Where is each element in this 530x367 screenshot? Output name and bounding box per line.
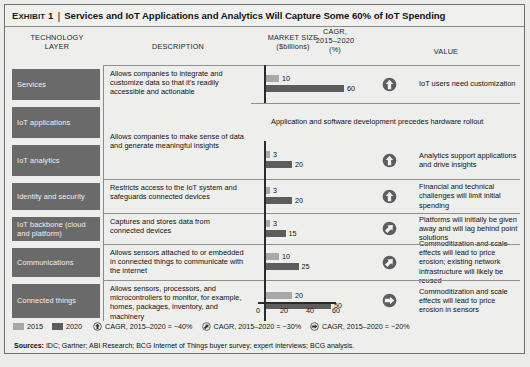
description-text: Allows sensors, processors, and microcon… (110, 284, 245, 321)
sources-note: Sources: IDC; Gartner; ABI Research; BCG… (14, 342, 354, 349)
arrow-diagonal-icon (382, 255, 397, 270)
layer-label: IoT backbone (cloud and platform) (17, 220, 95, 238)
value-cell: Commoditization and scale effects will l… (409, 244, 524, 280)
sources-label: Sources: (14, 342, 44, 349)
table-row: Connected thingsAllows sensors, processo… (5, 280, 524, 321)
bar-label-2015: 3 (273, 220, 277, 227)
bar-label-2015: 3 (273, 187, 277, 194)
legend-swatch (13, 323, 24, 330)
layer-chip[interactable]: Services (12, 69, 100, 100)
bar-group: 1025 (266, 244, 369, 280)
bar-group: 320 (266, 141, 369, 179)
page-title: Services and IoT Applications and Analyt… (64, 10, 445, 21)
value-text: Commoditization and scale effects will l… (419, 287, 518, 315)
legend-item-cagr[interactable]: CAGR, 2015–2020 = ~30% (202, 322, 302, 331)
bar-2020 (266, 85, 344, 92)
bar-label-2015: 20 (295, 292, 303, 299)
bar-2015 (266, 151, 270, 158)
column-header-cagr-line3: (%) (305, 45, 365, 54)
arrow-up-icon (93, 322, 102, 331)
bar-label-2020: 15 (289, 230, 297, 237)
technology-layer-cell: Communications (5, 244, 103, 280)
description-text: Restricts access to the IoT system and s… (110, 183, 245, 201)
x-axis-tick-label: 60 (332, 306, 340, 315)
bar-label-2015: 10 (282, 75, 290, 82)
column-header-cagr-line1: CAGR, (305, 27, 365, 36)
description-text: Captures and stores data from connected … (110, 217, 245, 235)
description-cell: Captures and stores data from connected … (103, 213, 251, 244)
arrow-diagonal-icon (382, 221, 397, 236)
legend-label: 2020 (66, 322, 82, 331)
description-text: Allows companies to make sense of data a… (110, 132, 245, 150)
arrow-up-icon (382, 153, 397, 168)
bar-2015 (266, 75, 279, 82)
table-row: IoT analytics320Analytics support applic… (5, 141, 524, 179)
market-size-cell: 320 (251, 141, 369, 179)
bar-2020 (266, 197, 292, 204)
technology-layer-cell: IoT applications (5, 103, 103, 141)
description-cell: Allows sensors attached to or embedded i… (103, 244, 251, 280)
value-text: IoT users need customization (419, 79, 515, 88)
legend-label: 2015 (27, 322, 43, 331)
x-axis-tick-label: 0 (256, 306, 260, 315)
bar-group: 1060 (266, 65, 369, 103)
value-cell: Commoditization and scale effects will l… (409, 280, 524, 321)
arrow-right-icon (310, 322, 319, 331)
value-cell: Analytics support applications and drive… (409, 141, 524, 179)
cagr-cell (369, 244, 409, 280)
layer-chip[interactable]: Communications (12, 248, 100, 277)
legend-item-cagr[interactable]: CAGR, 2015–2020 = ~40% (93, 322, 193, 331)
legend-label: CAGR, 2015–2020 = ~30% (214, 322, 302, 331)
chart-legend: 20152020CAGR, 2015–2020 = ~40%CAGR, 2015… (13, 322, 419, 331)
technology-layer-cell: IoT analytics (5, 141, 103, 179)
description-text: Allows sensors attached to or embedded i… (110, 248, 245, 276)
column-header-cagr: CAGR, 2015–2020 (%) (305, 27, 365, 54)
table-row: Identity and securityRestricts access to… (5, 179, 524, 213)
technology-layer-cell: Services (5, 65, 103, 103)
description-cell: Allows companies to make sense of data a… (103, 103, 251, 179)
cagr-cell (369, 179, 409, 213)
legend-item-series[interactable]: 2020 (52, 322, 82, 331)
layer-chip[interactable]: Identity and security (12, 183, 100, 210)
legend-label: CAGR, 2015–2020 = ~40% (105, 322, 193, 331)
bar-group: 315 (266, 213, 369, 244)
arrow-diagonal-icon (202, 322, 211, 331)
description-cell: Allows sensors, processors, and microcon… (103, 280, 251, 321)
layer-chip[interactable]: IoT backbone (cloud and platform) (12, 217, 100, 241)
layer-chip[interactable]: IoT applications (12, 107, 100, 138)
technology-layer-cell: Identity and security (5, 179, 103, 213)
market-size-cell: 320 (251, 179, 369, 213)
bar-2015 (266, 187, 270, 194)
layer-chip[interactable]: IoT analytics (12, 145, 100, 176)
value-text: Commoditization and scale effects will l… (419, 239, 518, 285)
column-headers: TECHNOLOGY LAYER DESCRIPTION MARKET SIZE… (5, 28, 524, 65)
bar-label-2020: 25 (302, 263, 310, 270)
description-cell: Allows companies to integrate and custom… (103, 65, 251, 103)
legend-item-series[interactable]: 2015 (13, 322, 43, 331)
legend-label: CAGR, 2015–2020 = ~20% (322, 322, 410, 331)
market-size-cell: 315 (251, 213, 369, 244)
bar-label-2020: 20 (295, 161, 303, 168)
column-header-technology-layer-line1: TECHNOLOGY (13, 33, 101, 42)
column-header-value: VALUE (371, 47, 521, 56)
column-header-technology-layer: TECHNOLOGY LAYER (13, 33, 101, 51)
column-header-description: DESCRIPTION (105, 42, 251, 51)
layer-label: Connected things (17, 296, 76, 305)
bar-group: 320 (266, 179, 369, 213)
legend-item-cagr[interactable]: CAGR, 2015–2020 = ~20% (310, 322, 410, 331)
bar-label-2020: 60 (347, 85, 355, 92)
bar-2020 (266, 263, 299, 270)
legend-swatch (52, 323, 63, 330)
layer-chip[interactable]: Connected things (12, 284, 100, 318)
value-cell: Application and software development pre… (261, 103, 524, 141)
x-axis-rule (258, 302, 336, 304)
layer-label: IoT analytics (17, 156, 60, 165)
x-axis-tick-label: 40 (306, 306, 314, 315)
arrow-up-icon (382, 189, 397, 204)
arrow-up-icon (382, 77, 397, 92)
column-header-cagr-line2: 2015–2020 (305, 36, 365, 45)
bar-2015 (266, 253, 279, 260)
bar-2020 (266, 161, 292, 168)
x-axis-tick-label: 20 (280, 306, 288, 315)
market-size-cell: 1025 (251, 244, 369, 280)
